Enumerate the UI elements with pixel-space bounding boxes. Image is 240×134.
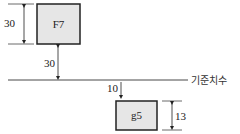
hole-tolerance-label: F7 — [53, 18, 65, 30]
shaft-offset-value: 10 — [107, 82, 119, 94]
shaft-height-dimension: 13 — [162, 101, 187, 130]
shaft-tolerance-label: g5 — [131, 109, 143, 121]
basic-size-label: 기준치수 — [191, 75, 227, 86]
shaft-tolerance-zone: g5 — [116, 101, 157, 130]
hole-height-dimension: 30 — [4, 4, 34, 44]
hole-offset-dimension: 30 — [44, 46, 58, 78]
fit-tolerance-diagram: F7 30 30 기준치수 10 g5 13 — [0, 0, 240, 134]
hole-tolerance-zone: F7 — [37, 4, 80, 44]
shaft-offset-dimension: 10 — [107, 82, 121, 97]
hole-offset-value: 30 — [44, 57, 56, 69]
hole-height-value: 30 — [4, 17, 16, 29]
shaft-height-value: 13 — [175, 110, 187, 122]
